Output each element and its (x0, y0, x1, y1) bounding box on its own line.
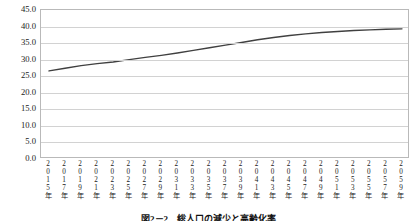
x-tick-label: 2031年 (170, 160, 182, 200)
x-tick-label: 2017年 (58, 160, 70, 200)
x-tick-label: 2027年 (138, 160, 150, 200)
x-tick-label: 2059年 (395, 160, 407, 200)
y-tick-label: 10.0 (21, 121, 36, 129)
y-tick-label: 15.0 (21, 104, 36, 112)
y-tick-label: 20.0 (21, 88, 36, 96)
x-tick-label: 2019年 (74, 160, 86, 200)
y-tick-label: 5.0 (25, 137, 36, 145)
gridline (41, 60, 408, 61)
gridline (41, 109, 408, 110)
gridline (41, 93, 408, 94)
y-tick-label: 25.0 (21, 71, 36, 79)
x-tick-label: 2051年 (331, 160, 343, 200)
x-tick-label: 2053年 (347, 160, 359, 200)
x-tick-label: 2029年 (154, 160, 166, 200)
series-line (41, 10, 410, 159)
x-tick-label: 2015年 (42, 160, 54, 200)
y-tick-label: 0.0 (25, 154, 36, 162)
plot-area (40, 9, 409, 158)
x-tick-label: 2023年 (106, 160, 118, 200)
x-tick-label: 2055年 (363, 160, 375, 200)
gridline (41, 27, 408, 28)
x-tick-label: 2043年 (267, 160, 279, 200)
y-tick-label: 35.0 (21, 38, 36, 46)
x-tick-label: 2039年 (235, 160, 247, 200)
x-tick-label: 2037年 (219, 160, 231, 200)
x-axis: 2015年2017年2019年2021年2023年2025年2027年2029年… (40, 160, 409, 208)
x-tick-label: 2045年 (283, 160, 295, 200)
gridline (41, 126, 408, 127)
x-tick-label: 2033年 (186, 160, 198, 200)
y-tick-label: 30.0 (21, 55, 36, 63)
gridline (41, 142, 408, 143)
x-tick-label: 2057年 (379, 160, 391, 200)
figure-caption: 図2－2 総人口の減少と高齢化率 (0, 212, 417, 221)
x-tick-label: 2047年 (299, 160, 311, 200)
y-tick-label: 45.0 (21, 5, 36, 13)
x-tick-label: 2025年 (122, 160, 134, 200)
y-tick-label: 40.0 (21, 22, 36, 30)
gridline (41, 76, 408, 77)
y-axis: 45.040.035.030.025.020.015.010.05.00.0 (0, 0, 40, 167)
gridline (41, 43, 408, 44)
x-tick-label: 2041年 (251, 160, 263, 200)
chart-figure: 45.040.035.030.025.020.015.010.05.00.0 2… (0, 0, 417, 221)
x-tick-label: 2021年 (90, 160, 102, 200)
x-tick-label: 2049年 (315, 160, 327, 200)
x-tick-label: 2035年 (202, 160, 214, 200)
